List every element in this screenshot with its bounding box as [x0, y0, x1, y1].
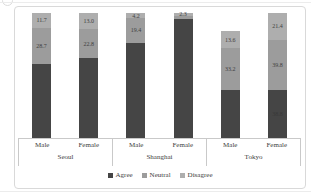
segment-agree: [221, 90, 240, 139]
data-label: 13.6: [225, 37, 236, 43]
legend-label: Disagree: [188, 171, 213, 179]
bar-slot: 13.022.8: [65, 12, 112, 138]
data-label: 11.7: [36, 17, 46, 23]
segment-neutral: 39.8: [268, 40, 287, 90]
segment-neutral: 28.7: [32, 28, 51, 64]
stacked-bar-seoul-male: 11.728.7: [32, 13, 51, 138]
bar-slot: 2.3: [160, 12, 207, 138]
category-label-row: MaleFemale: [113, 139, 206, 151]
data-label: 21.4: [272, 23, 283, 29]
axis-group-tokyo: MaleFemaleTokyo: [207, 139, 301, 166]
segment-disagree: 13.0: [79, 13, 98, 29]
legend-color-swatch: [180, 173, 185, 178]
category-label-seoul-female: Female: [66, 139, 113, 151]
data-label: 28.7: [36, 43, 47, 49]
legend-label: Agree: [116, 171, 133, 179]
stacked-bar-seoul-female: 13.022.8: [79, 13, 98, 138]
group-label-seoul: Seoul: [19, 151, 112, 166]
category-label-shanghai-female: Female: [160, 139, 207, 151]
stacked-bar-shanghai-female: 2.3: [174, 13, 193, 138]
segment-disagree: 21.4: [268, 13, 287, 40]
segment-disagree: 13.6: [221, 31, 240, 48]
page-top-rule: [0, 2, 311, 3]
chart-legend: AgreeNeutralDisagree: [15, 170, 305, 180]
stacked-bar-tokyo-male: 13.633.2: [221, 31, 240, 138]
segment-neutral: 33.2: [221, 48, 240, 90]
category-label-row: MaleFemale: [207, 139, 300, 151]
axis-group-shanghai: MaleFemaleShanghai: [113, 139, 207, 166]
category-label-tokyo-female: Female: [254, 139, 301, 151]
chart-frame: 11.728.713.022.84.219.42.313.633.221.439…: [14, 6, 306, 189]
page-bottom-rule: [0, 191, 311, 192]
bar-slot: 11.728.7: [18, 12, 65, 138]
bar-group-shanghai: 4.219.42.3: [112, 12, 206, 138]
category-axis: MaleFemaleSeoulMaleFemaleShanghaiMaleFem…: [18, 138, 301, 166]
segment-neutral: 22.8: [79, 29, 98, 58]
bar-slot: 4.219.4: [112, 12, 159, 138]
segment-agree: 38.8: [268, 90, 287, 139]
chart-screenshot: 11.728.713.022.84.219.42.313.633.221.439…: [0, 0, 311, 194]
stacked-bar-tokyo-female: 21.439.838.8: [268, 13, 287, 138]
segment-disagree: 11.7: [32, 13, 51, 28]
bar-slot: 21.439.838.8: [254, 12, 301, 138]
data-label: 13.0: [84, 18, 95, 24]
stacked-bar-shanghai-male: 4.219.4: [126, 13, 145, 138]
segment-agree: [79, 58, 98, 138]
page-artifact-circle: [2, 0, 13, 6]
legend-item-agree: Agree: [108, 171, 133, 179]
category-label-row: MaleFemale: [19, 139, 112, 151]
category-label-tokyo-male: Male: [207, 139, 254, 151]
segment-agree: [174, 19, 193, 138]
legend-color-swatch: [108, 173, 113, 178]
plot-area: 11.728.713.022.84.219.42.313.633.221.439…: [18, 12, 301, 138]
legend-label: Neutral: [150, 171, 171, 179]
bar-group-seoul: 11.728.713.022.8: [18, 12, 112, 138]
segment-neutral: 19.4: [126, 18, 145, 42]
data-label: 39.8: [272, 62, 283, 68]
data-label: 38.8: [272, 111, 283, 117]
legend-color-swatch: [142, 173, 147, 178]
data-label: 22.8: [84, 41, 95, 47]
segment-agree: [32, 64, 51, 139]
legend-item-neutral: Neutral: [142, 171, 171, 179]
axis-group-seoul: MaleFemaleSeoul: [19, 139, 113, 166]
group-label-shanghai: Shanghai: [113, 151, 206, 166]
category-label-shanghai-male: Male: [113, 139, 160, 151]
segment-agree: [126, 43, 145, 139]
bar-group-tokyo: 13.633.221.439.838.8: [207, 12, 301, 138]
bar-slot: 13.633.2: [207, 12, 254, 138]
category-label-seoul-male: Male: [19, 139, 66, 151]
legend-item-disagree: Disagree: [180, 171, 213, 179]
group-label-tokyo: Tokyo: [207, 151, 300, 166]
data-label: 33.2: [225, 66, 236, 72]
data-label: 19.4: [131, 27, 142, 33]
